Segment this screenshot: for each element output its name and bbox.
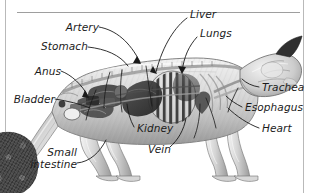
label-small-intestine: Small intestine <box>0 147 77 170</box>
label-artery: Artery <box>0 22 99 34</box>
anatomy-figure: Artery Liver Lungs Stomach Anus Bladder … <box>0 0 311 193</box>
label-kidney: Kidney <box>137 123 173 135</box>
label-heart: Heart <box>262 123 292 135</box>
label-anus: Anus <box>0 66 61 78</box>
anus-organ <box>59 101 66 108</box>
leader-stomach <box>88 47 128 66</box>
page-rule-top <box>17 12 300 13</box>
label-lungs: Lungs <box>200 28 232 40</box>
label-bladder: Bladder <box>0 94 55 106</box>
label-vein: Vein <box>148 144 171 156</box>
cat-ear <box>276 36 302 57</box>
label-trachea: Trachea <box>262 82 304 94</box>
leader-artery <box>99 27 140 62</box>
page-rule-right <box>303 0 304 193</box>
bladder-organ <box>64 108 80 120</box>
label-liver: Liver <box>190 9 216 21</box>
label-esophagus: Esophagus <box>245 102 303 114</box>
label-stomach: Stomach <box>0 41 88 53</box>
